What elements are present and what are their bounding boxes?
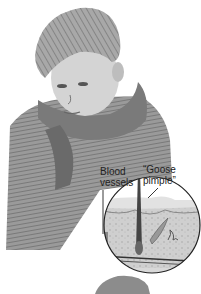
goose-pimple-label-line2: pimple” bbox=[143, 175, 176, 186]
goose-pimple-label-line1: “Goose bbox=[143, 164, 176, 175]
blood-vessels-label-line2: vessels bbox=[100, 177, 133, 188]
goose-pimple-label: “Goose pimple” bbox=[143, 164, 176, 186]
boy-head bbox=[35, 8, 124, 116]
blood-vessels-label: Blood vessels bbox=[100, 166, 133, 188]
partial-figure bbox=[95, 276, 150, 294]
boy-illustration bbox=[0, 0, 201, 294]
blood-vessels-label-line1: Blood bbox=[100, 166, 133, 177]
illustration: Blood vessels “Goose pimple” bbox=[0, 0, 201, 294]
